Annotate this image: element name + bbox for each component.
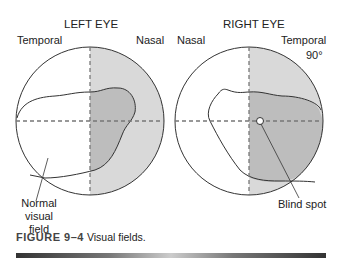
blind-spot-label: Blind spot [278,198,326,210]
figure-caption: FIGURE 9–4 Visual fields. [16,231,146,243]
callout-line-2: visual [18,210,60,223]
right-eye-temporal-label: Temporal [281,34,326,46]
left-eye-title: LEFT EYE [64,18,118,30]
degree-label: 90° [306,49,323,61]
caption-text: Visual fields. [87,231,146,243]
figure-number: FIGURE 9–4 [16,231,84,243]
normal-field-leader [36,158,48,201]
right-eye-title: RIGHT EYE [223,18,285,30]
left-eye-nasal-label: Nasal [136,34,164,46]
right-eye-nasal-label: Nasal [177,34,205,46]
callout-line-1: Normal [18,197,60,210]
left-eye-temporal-label: Temporal [17,34,62,46]
blind-spot-marker [257,118,264,125]
right-eye-field [175,40,329,210]
caption-rule [16,253,326,258]
left-eye-field [16,40,170,210]
